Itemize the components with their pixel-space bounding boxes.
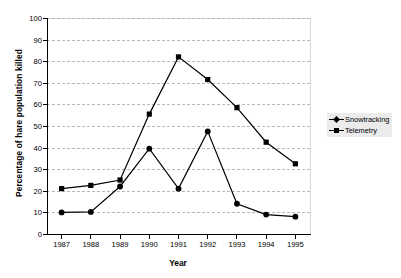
- gridline: [47, 126, 310, 127]
- chart-legend: Snowtracking Telemetry: [327, 113, 392, 137]
- square-marker-icon: [329, 126, 344, 135]
- x-tick-mark: [120, 234, 121, 239]
- line-chart-figure: Percentage of hare population killed Yea…: [0, 0, 401, 278]
- y-axis-line: [47, 18, 48, 234]
- y-tick-label: 60: [2, 100, 42, 109]
- y-tick-label: 10: [2, 208, 42, 217]
- gridline: [47, 18, 310, 19]
- y-tick-label: 20: [2, 186, 42, 195]
- legend-item-snowtracking: Snowtracking: [329, 115, 389, 124]
- x-tick-mark: [149, 234, 150, 239]
- diamond-marker-icon: [329, 115, 344, 124]
- x-axis-line: [47, 234, 311, 235]
- y-tick-label: 50: [2, 122, 42, 131]
- x-tick-mark: [295, 234, 296, 239]
- y-tick-label: 90: [2, 35, 42, 44]
- y-tick-label: 0: [2, 230, 42, 239]
- gridline: [47, 191, 310, 192]
- x-tick-label: 1995: [275, 240, 315, 249]
- x-axis-title: Year: [40, 258, 316, 268]
- x-tick-mark: [266, 234, 267, 239]
- gridline: [47, 169, 310, 170]
- legend-label: Telemetry: [345, 126, 377, 135]
- x-tick-mark: [61, 234, 62, 239]
- y-tick-label: 70: [2, 78, 42, 87]
- gridline: [47, 40, 310, 41]
- legend-label: Snowtracking: [345, 115, 389, 124]
- x-tick-mark: [90, 234, 91, 239]
- legend-item-telemetry: Telemetry: [329, 126, 389, 135]
- gridline: [47, 104, 310, 105]
- gridline: [47, 61, 310, 62]
- y-tick-label: 80: [2, 57, 42, 66]
- y-tick-label: 30: [2, 165, 42, 174]
- x-tick-mark: [236, 234, 237, 239]
- gridline: [47, 148, 310, 149]
- y-tick-label: 40: [2, 143, 42, 152]
- x-tick-mark: [178, 234, 179, 239]
- y-tick-label: 100: [2, 14, 42, 23]
- gridline: [47, 83, 310, 84]
- x-tick-mark: [207, 234, 208, 239]
- gridline: [47, 212, 310, 213]
